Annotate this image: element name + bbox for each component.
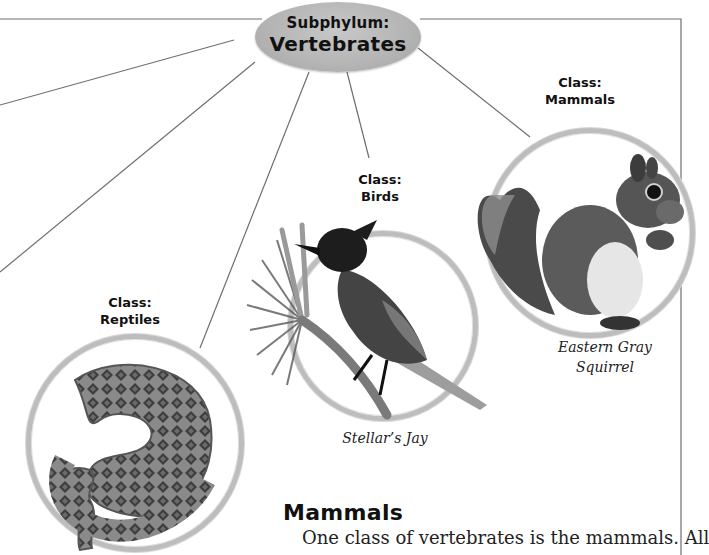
class-mammals-label-line1: Class: [535, 74, 625, 91]
stellers-jay-caption: Stellar’s Jay [330, 428, 440, 448]
class-birds-label-line1: Class: [345, 171, 415, 188]
connector-birds [347, 72, 369, 158]
root-label-line1: Subphylum: [255, 14, 421, 32]
class-birds-label-line2: Birds [345, 188, 415, 205]
subphylum-vertebrates-node: Subphylum: Vertebrates [255, 2, 421, 72]
section-heading: Mammals [283, 500, 403, 525]
connector-left-upper [0, 40, 234, 105]
gray-squirrel-caption-line2: Squirrel [545, 357, 665, 377]
gray-squirrel-caption-line1: Eastern Gray [545, 337, 665, 357]
gray-squirrel-photo [470, 140, 685, 335]
rattlesnake-photo [30, 340, 230, 555]
root-label-line2: Vertebrates [255, 32, 421, 56]
connector-mammals [418, 48, 530, 137]
gray-squirrel-caption: Eastern Gray Squirrel [545, 337, 665, 377]
class-mammals-label: Class: Mammals [535, 74, 625, 108]
class-mammals-label-line2: Mammals [535, 91, 625, 108]
section-body: One class of vertebrates is the mammals.… [302, 527, 709, 548]
class-reptiles-label: Class: Reptiles [90, 294, 170, 328]
connector-left-lower [0, 62, 255, 272]
class-reptiles-label-line1: Class: [90, 294, 170, 311]
class-birds-label: Class: Birds [345, 171, 415, 205]
class-reptiles-label-line2: Reptiles [90, 311, 170, 328]
stellers-jay-photo [242, 210, 492, 425]
